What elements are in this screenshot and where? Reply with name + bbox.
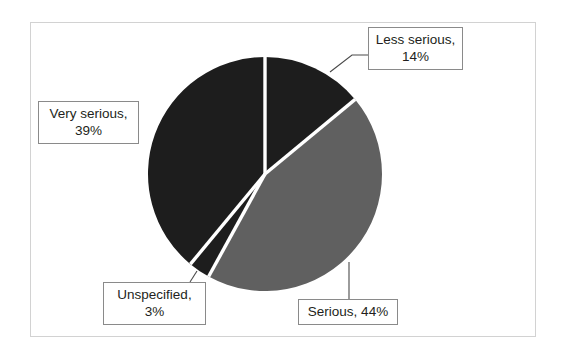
pie-label-unspecified: Unspecified, 3% (103, 282, 206, 325)
leader-line-less-serious (330, 55, 368, 72)
pie-label-less-serious-line2: 14% (375, 48, 456, 65)
pie-label-very-serious: Very serious, 39% (38, 101, 139, 144)
pie-label-serious: Serious, 44% (298, 299, 398, 325)
pie-label-serious-line1: Serious, 44% (305, 303, 391, 320)
pie-label-very-serious-line1: Very serious, (45, 105, 132, 122)
pie-chart-figure: Less serious, 14% Very serious, 39% Unsp… (0, 0, 563, 356)
pie-chart-graphic (0, 0, 563, 356)
pie-label-less-serious: Less serious, 14% (368, 27, 463, 70)
pie-label-unspecified-line1: Unspecified, (110, 286, 199, 303)
pie-label-less-serious-line1: Less serious, (375, 31, 456, 48)
pie-label-unspecified-line2: 3% (110, 303, 199, 320)
leader-line-unspecified (190, 271, 197, 282)
pie-label-very-serious-line2: 39% (45, 122, 132, 139)
